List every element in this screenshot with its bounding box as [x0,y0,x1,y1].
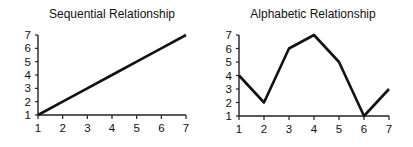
x-tick-label: 6 [158,122,164,134]
chart-title: Alphabetic Relationship [250,7,376,21]
y-tick-label: 5 [226,56,232,68]
y-tick-label: 1 [226,110,232,122]
alphabetic-chart: Alphabetic Relationship 1234567 1234567 [226,7,393,135]
x-tick-label: 3 [84,122,90,134]
data-line [38,35,186,115]
y-axis-ticks: 1234567 [226,29,239,122]
x-tick-label: 2 [261,123,267,135]
x-tick-label: 4 [109,122,116,134]
x-tick-label: 5 [336,123,342,135]
x-axis-ticks: 1234567 [236,116,392,135]
x-tick-label: 7 [386,123,392,135]
y-tick-label: 2 [226,97,232,109]
x-tick-label: 2 [59,122,65,134]
x-tick-label: 6 [361,123,367,135]
chart-title: Sequential Relationship [49,7,175,21]
y-axis-ticks: 1234567 [25,29,38,121]
y-tick-label: 2 [25,96,31,108]
sequential-chart: Sequential Relationship 1234567 1234567 [25,7,190,134]
y-tick-label: 1 [25,109,31,121]
charts-canvas: Sequential Relationship 1234567 1234567 … [0,0,413,147]
x-tick-label: 3 [286,123,292,135]
y-tick-label: 6 [25,42,31,54]
axes [239,35,389,116]
y-tick-label: 7 [226,29,232,41]
y-tick-label: 4 [226,70,233,82]
y-tick-label: 4 [25,69,32,81]
x-tick-label: 1 [35,122,41,134]
y-tick-label: 3 [25,82,31,94]
x-tick-label: 5 [133,122,139,134]
data-line [239,35,389,116]
x-tick-label: 4 [311,123,318,135]
x-tick-label: 7 [183,122,189,134]
y-tick-label: 5 [25,56,31,68]
x-tick-label: 1 [236,123,242,135]
y-tick-label: 3 [226,83,232,95]
y-tick-label: 7 [25,29,31,41]
y-tick-label: 6 [226,43,232,55]
x-axis-ticks: 1234567 [35,115,189,134]
